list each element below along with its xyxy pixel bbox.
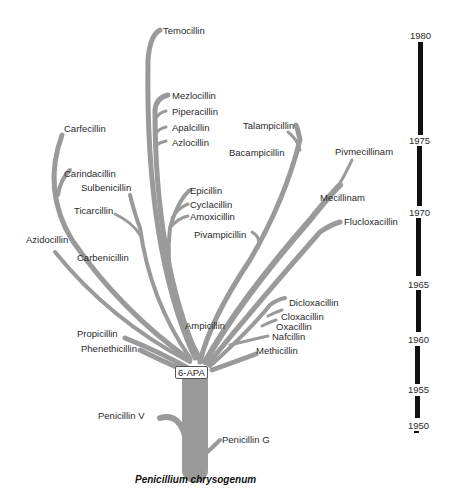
label-dicloxacillin: Dicloxacillin	[289, 297, 339, 308]
label-carfecillin: Carfecillin	[64, 123, 106, 134]
year-1965: 1965	[408, 279, 429, 290]
label-mecillinam: Mecillinam	[320, 192, 365, 203]
label-flucloxacillin: Flucloxacillin	[344, 216, 398, 227]
label-cyclacillin: Cyclacillin	[190, 199, 232, 210]
label-epicillin: Epicillin	[190, 185, 222, 196]
label-penicillin-v: Penicillin V	[98, 410, 144, 421]
label-penicillin-g: Penicillin G	[222, 434, 270, 445]
label-nafcillin: Nafcillin	[272, 331, 305, 342]
branch-cloxacillin	[268, 310, 282, 316]
year-1980: 1980	[410, 30, 431, 41]
label-talampicillin: Talampicillin	[243, 120, 294, 131]
label-apalcillin: Apalcillin	[172, 122, 210, 133]
label-amoxicillin: Amoxicillin	[190, 211, 235, 222]
label-pivmecillinam: Pivmecillinam	[335, 146, 393, 157]
branch-oxacillin	[262, 320, 276, 326]
year-1960: 1960	[408, 334, 429, 345]
label-bacampicillin: Bacampicillin	[229, 147, 284, 158]
label-ticarcillin: Ticarcillin	[74, 205, 113, 216]
label-propicillin: Propicillin	[77, 328, 118, 339]
year-1970: 1970	[409, 207, 430, 218]
label-temocillin: Temocillin	[163, 25, 205, 36]
label-sulbenicillin: Sulbenicillin	[81, 182, 131, 193]
root-caption: Penicillium chrysogenum	[135, 474, 256, 485]
label-azidocillin: Azidocillin	[26, 234, 68, 245]
core-6-apa-badge: 6-APA	[175, 366, 208, 379]
year-1975: 1975	[409, 135, 430, 146]
penicillin-family-tree	[0, 0, 453, 498]
year-1955: 1955	[408, 384, 429, 395]
year-1950: 1950	[408, 420, 429, 431]
label-carindacillin: Carindacillin	[64, 168, 116, 179]
branch-pivmecillinam	[336, 160, 352, 190]
label-azlocillin: Azlocillin	[172, 137, 209, 148]
label-methicillin: Methicillin	[256, 345, 298, 356]
label-piperacillin: Piperacillin	[172, 106, 218, 117]
branch-mezlocillin	[155, 95, 198, 358]
timeline-bar	[414, 42, 423, 433]
label-phenethicillin: Phenethicillin	[81, 343, 137, 354]
label-pivampicillin: Pivampicillin	[194, 229, 246, 240]
label-mezlocillin: Mezlocillin	[172, 90, 216, 101]
label-ampicillin: Ampicillin	[185, 320, 225, 331]
label-carbenicillin: Carbenicillin	[77, 252, 129, 263]
